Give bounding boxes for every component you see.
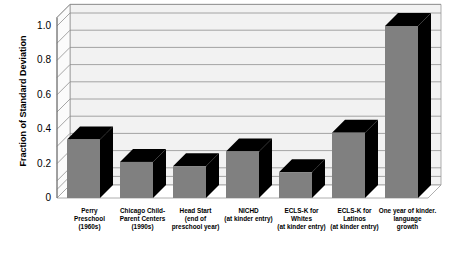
y-tick-label: 0.8 [25,55,51,65]
x-axis-label-line: growth [376,223,440,231]
y-tick-label: 0.2 [25,159,51,169]
bar [120,149,166,198]
x-axis-label-line: preschool year) [164,223,228,231]
x-axis-label-line: language [376,215,440,223]
bar [385,13,431,198]
bar-chart: Fraction of Standard Deviation 00.20.40.… [0,0,452,253]
y-tick-label: 0.6 [25,90,51,100]
bar [332,120,378,198]
bar [67,127,113,198]
x-axis-label: One year of kinder.languagegrowth [376,207,440,232]
y-tick-label: 0.4 [25,124,51,134]
bar [173,153,219,198]
y-tick-label: 0 [25,193,51,203]
bar [226,139,272,198]
x-axis-label-line: One year of kinder. [376,207,440,215]
y-tick-label: 1.0 [25,21,51,31]
x-axis-labels: PerryPreschool(1960s)Chicago Child-Paren… [0,203,452,253]
